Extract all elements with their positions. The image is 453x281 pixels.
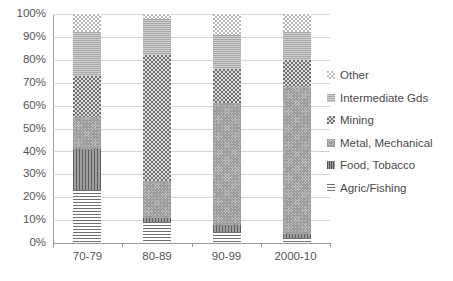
x-tick-label-2000-10: 2000-10 xyxy=(261,250,330,262)
segment-food-tobacco[interactable] xyxy=(143,218,171,223)
segment-mining[interactable] xyxy=(213,69,241,103)
y-tick-label-0: 0% xyxy=(0,237,46,249)
y-tick-label-40: 40% xyxy=(0,146,46,158)
y-tick-label-30: 30% xyxy=(0,168,46,180)
segment-metal-mechanical[interactable] xyxy=(213,103,241,224)
legend-label: Food, Tobacco xyxy=(340,159,415,171)
x-tick-mark xyxy=(53,243,54,247)
legend-label: Other xyxy=(340,69,369,81)
legend-label: Intermediate Gds xyxy=(340,92,428,104)
x-tick-mark xyxy=(122,243,123,247)
x-tick-mark xyxy=(330,243,331,247)
bar-80-89[interactable] xyxy=(143,14,171,243)
x-tick-label-70-79: 70-79 xyxy=(53,250,122,262)
segment-mining[interactable] xyxy=(143,55,171,181)
y-tick-label-80: 80% xyxy=(0,54,46,66)
y-tick-label-70: 70% xyxy=(0,77,46,89)
segment-agric-fishing[interactable] xyxy=(73,190,101,243)
segment-metal-mechanical[interactable] xyxy=(143,181,171,218)
segment-other[interactable] xyxy=(73,14,101,32)
segment-food-tobacco[interactable] xyxy=(213,225,241,232)
y-tick-label-20: 20% xyxy=(0,191,46,203)
bar-70-79[interactable] xyxy=(73,14,101,243)
legend-item-other[interactable]: Other xyxy=(327,64,453,87)
segment-other[interactable] xyxy=(213,14,241,35)
bar-2000-10[interactable] xyxy=(283,14,311,243)
y-tick-label-50: 50% xyxy=(0,123,46,135)
segment-mining[interactable] xyxy=(283,60,311,87)
x-tick-label-80-89: 80-89 xyxy=(122,250,192,262)
x-tick-mark xyxy=(192,243,193,247)
segment-intermediate-gds[interactable] xyxy=(73,32,101,76)
y-tick-label-10: 10% xyxy=(0,214,46,226)
bar-90-99[interactable] xyxy=(213,14,241,243)
legend-label: Mining xyxy=(340,114,374,126)
plot-area xyxy=(53,14,330,243)
metal-mechanical-swatch-icon xyxy=(327,139,335,147)
stacked-bar-chart: 100% 90% 80% 70% 60% 50% 40% 30% 20% 10%… xyxy=(0,0,453,281)
legend-item-metal-mechanical[interactable]: Metal, Mechanical xyxy=(327,132,453,155)
y-axis-labels: 100% 90% 80% 70% 60% 50% 40% 30% 20% 10%… xyxy=(0,0,52,281)
y-tick-label-90: 90% xyxy=(0,31,46,43)
segment-agric-fishing[interactable] xyxy=(213,232,241,243)
legend-item-intermediate-gds[interactable]: Intermediate Gds xyxy=(327,87,453,110)
x-tick-mark xyxy=(261,243,262,247)
legend-label: Metal, Mechanical xyxy=(340,137,433,149)
legend-item-mining[interactable]: Mining xyxy=(327,109,453,132)
y-tick-label-60: 60% xyxy=(0,100,46,112)
segment-other[interactable] xyxy=(143,14,171,19)
segment-other[interactable] xyxy=(283,14,311,32)
legend-item-agric-fishing[interactable]: Agric/Fishing xyxy=(327,177,453,200)
x-tick-label-90-99: 90-99 xyxy=(192,250,261,262)
segment-intermediate-gds[interactable] xyxy=(283,32,311,59)
intermediate-gds-swatch-icon xyxy=(327,94,335,102)
other-swatch-icon xyxy=(327,71,335,79)
mining-swatch-icon xyxy=(327,116,335,124)
agric-fishing-swatch-icon xyxy=(327,184,335,192)
y-tick-label-100: 100% xyxy=(0,8,46,20)
segment-agric-fishing[interactable] xyxy=(143,222,171,243)
segment-intermediate-gds[interactable] xyxy=(213,35,241,69)
segment-intermediate-gds[interactable] xyxy=(143,19,171,56)
segment-mining[interactable] xyxy=(73,76,101,117)
legend-label: Agric/Fishing xyxy=(340,182,406,194)
legend-item-food-tobacco[interactable]: Food, Tobacco xyxy=(327,154,453,177)
segment-food-tobacco[interactable] xyxy=(73,149,101,190)
food-tobacco-swatch-icon xyxy=(327,161,335,169)
segment-metal-mechanical[interactable] xyxy=(73,117,101,149)
segment-metal-mechanical[interactable] xyxy=(283,87,311,234)
segment-food-tobacco[interactable] xyxy=(283,234,311,239)
chart-legend: Other Intermediate Gds Mining Metal, Mec… xyxy=(327,64,453,199)
